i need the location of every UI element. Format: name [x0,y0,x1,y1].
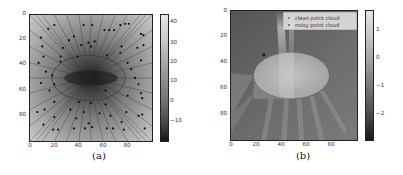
ytick-a-80: 80 [8,112,26,118]
ytick-b-20: 20 [209,33,227,39]
ytick-b-60: 60 [209,85,227,91]
colorbar-b [365,10,374,141]
legend-marker-clean-icon [288,17,290,19]
ytick-b-80: 80 [209,111,227,117]
heatmap-a-image [30,15,152,141]
cbar-a-tick-10: 10 [170,78,177,84]
cbar-b-tick-1: 1 [376,27,380,33]
cbar-b-tick-0: 0 [376,55,380,61]
legend-marker-noisy-icon [288,24,290,26]
xtick-b-0: 0 [223,142,239,148]
heatmap-a [29,14,153,142]
xtick-a-60: 60 [95,143,111,149]
dark-spot-b [262,53,265,56]
xtick-a-40: 40 [70,143,86,149]
ytick-a-0: 0 [8,11,26,17]
xtick-b-80: 80 [323,142,339,148]
ytick-a-40: 40 [8,61,26,67]
cbar-a-tick-0: 0 [170,98,174,104]
ytick-a-20: 20 [8,36,26,42]
cbar-b-tick-neg1: −1 [376,83,384,89]
xtick-a-20: 20 [46,143,62,149]
legend-entry-noisy: noisy point cloud [286,21,354,28]
legend-label-noisy: noisy point cloud [295,22,339,28]
xtick-a-0: 0 [22,143,38,149]
cbar-a-tick-40: 40 [170,19,177,25]
cbar-b-tick-neg2: −2 [376,111,384,117]
colorbar-a [160,14,169,142]
xtick-b-60: 60 [298,142,314,148]
xtick-b-20: 20 [248,142,264,148]
caption-a: (a) [79,150,119,161]
xtick-a-80: 80 [119,143,135,149]
ytick-b-0: 0 [209,8,227,14]
caption-b: (b) [283,150,323,161]
cbar-a-tick-neg10: −10 [170,118,182,124]
legend-entry-clean: clean point cloud [286,14,354,21]
cbar-a-tick-30: 30 [170,40,177,46]
ytick-a-60: 60 [8,87,26,93]
legend-b: clean point cloud noisy point cloud [283,12,357,30]
ytick-b-40: 40 [209,59,227,65]
legend-label-clean: clean point cloud [295,15,340,21]
heatmap-b-image [231,11,357,140]
xtick-b-40: 40 [273,142,289,148]
cbar-a-tick-20: 20 [170,59,177,65]
